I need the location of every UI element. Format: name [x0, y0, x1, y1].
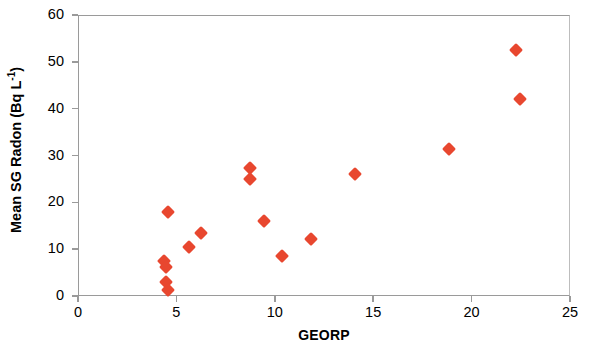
plot-area [78, 15, 570, 296]
data-point [243, 172, 257, 186]
data-point [304, 232, 318, 246]
y-tick-label: 30 [38, 147, 64, 163]
x-tick-label: 20 [457, 304, 487, 320]
y-tick-label: 0 [38, 287, 64, 303]
data-point [347, 167, 361, 181]
x-tick-mark [569, 296, 571, 302]
y-axis-title: Mean SG Radon (Bq L-1) [0, 0, 30, 300]
data-point [513, 92, 527, 106]
y-tick-label: 60 [38, 6, 64, 22]
y-tick-label: 50 [38, 53, 64, 69]
y-axis-title-exponent: -1 [6, 72, 17, 81]
data-point [160, 205, 174, 219]
x-tick-mark [471, 296, 473, 302]
x-axis-title-text: GEORP [298, 327, 350, 343]
scatter-chart: Mean SG Radon (Bq L-1) 0102030405060 051… [0, 0, 593, 355]
y-axis-title-suffix: ) [8, 67, 24, 72]
x-tick-label: 25 [555, 304, 585, 320]
y-axis-title-prefix: Mean SG Radon (Bq L [8, 81, 24, 233]
x-tick-mark [77, 296, 79, 302]
data-point [275, 249, 289, 263]
x-tick-mark [372, 296, 374, 302]
x-tick-label: 10 [260, 304, 290, 320]
x-axis-title: GEORP [78, 326, 570, 344]
x-tick-mark [274, 296, 276, 302]
x-tick-label: 0 [63, 304, 93, 320]
x-tick-mark [176, 296, 178, 302]
data-point [257, 214, 271, 228]
y-tick-label: 20 [38, 193, 64, 209]
y-axis-title-text: Mean SG Radon (Bq L-1) [6, 67, 24, 233]
data-point [442, 141, 456, 155]
x-tick-label: 5 [161, 304, 191, 320]
data-point [509, 43, 523, 57]
x-tick-label: 15 [358, 304, 388, 320]
y-tick-label: 10 [38, 240, 64, 256]
y-tick-label: 40 [38, 100, 64, 116]
data-point [194, 226, 208, 240]
data-point [182, 240, 196, 254]
